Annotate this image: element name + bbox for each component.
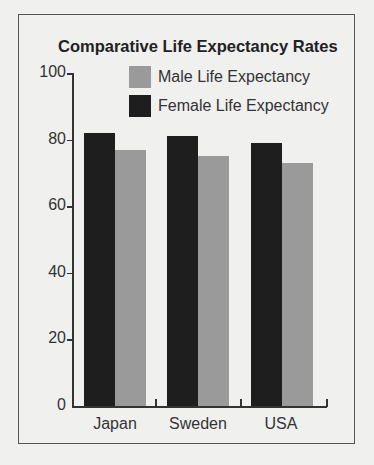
y-tick-label: 20 xyxy=(30,329,66,347)
y-tick xyxy=(67,206,73,208)
x-tick xyxy=(240,399,242,407)
x-label-sweden: Sweden xyxy=(158,415,238,433)
y-axis xyxy=(72,73,74,407)
x-tick xyxy=(155,399,157,407)
y-tick xyxy=(67,73,73,75)
legend-item-male: Male Life Expectancy xyxy=(129,66,310,88)
x-label-usa: USA xyxy=(241,415,321,433)
legend-label-female: Female Life Expectancy xyxy=(158,97,329,115)
y-tick-label: 100 xyxy=(30,63,66,81)
x-label-japan: Japan xyxy=(75,415,155,433)
legend-item-female: Female Life Expectancy xyxy=(129,95,329,117)
y-tick-label: 0 xyxy=(30,396,66,414)
bar-japan-female xyxy=(84,133,115,406)
legend-swatch-female xyxy=(129,95,151,117)
bar-usa-male xyxy=(282,163,313,406)
bar-sweden-female xyxy=(167,136,198,406)
chart-title: Comparative Life Expectancy Rates xyxy=(58,37,338,56)
legend-label-male: Male Life Expectancy xyxy=(158,68,310,86)
y-tick-label: 80 xyxy=(30,130,66,148)
y-tick xyxy=(67,339,73,341)
y-tick xyxy=(67,273,73,275)
y-tick-label: 40 xyxy=(30,263,66,281)
bar-japan-male xyxy=(115,150,146,406)
x-axis xyxy=(72,406,327,408)
bar-sweden-male xyxy=(198,156,229,406)
x-tick xyxy=(326,399,328,407)
legend-swatch-male xyxy=(129,66,151,88)
bar-usa-female xyxy=(251,143,282,406)
y-tick xyxy=(67,140,73,142)
y-tick-label: 60 xyxy=(30,196,66,214)
